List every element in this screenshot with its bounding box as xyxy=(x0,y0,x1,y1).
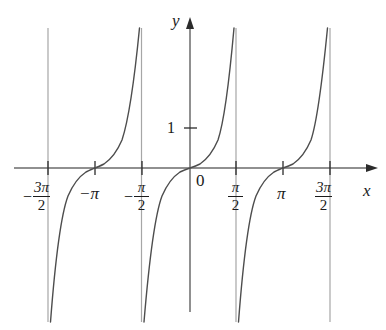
fraction-numerator: π xyxy=(137,180,147,195)
tangent-function-graph: y x 0 1 − 3π 2 −π − π 2 π xyxy=(0,0,386,330)
x-axis-label: x xyxy=(363,182,371,199)
fraction-denominator: 2 xyxy=(319,198,329,213)
origin-label: 0 xyxy=(196,172,205,189)
x-tick-label-3pi-over-2: 3π 2 xyxy=(315,180,332,214)
tangent-curve-group xyxy=(51,28,328,322)
fraction-denominator: 2 xyxy=(137,198,147,213)
fraction-pi-over-2: π 2 xyxy=(134,180,149,214)
y-axis-arrowhead xyxy=(186,17,194,29)
tangent-branch-center xyxy=(144,28,234,322)
fraction-3pi-over-2: 3π 2 xyxy=(33,180,50,214)
fraction-denominator: 2 xyxy=(231,198,241,213)
fraction-numerator: π xyxy=(231,180,241,195)
fraction-denominator: 2 xyxy=(37,198,47,213)
x-tick-label-pi-over-2: π 2 xyxy=(228,180,243,214)
asymptote-group xyxy=(48,28,330,322)
x-tick-label-neg-3pi-over-2: − 3π 2 xyxy=(23,180,50,214)
y-axis-label: y xyxy=(172,12,180,29)
minus-sign: − xyxy=(23,189,32,205)
x-tick-label-neg-pi: −π xyxy=(79,185,99,202)
x-tick-label-pi: π xyxy=(277,185,286,202)
x-tick-label-neg-pi-over-2: − π 2 xyxy=(124,180,149,214)
fraction-numerator: 3π xyxy=(315,180,332,195)
fraction-3pi-over-2: 3π 2 xyxy=(315,180,332,214)
minus-sign: − xyxy=(124,189,133,205)
y-tick-label-one: 1 xyxy=(167,120,175,136)
fraction-numerator: 3π xyxy=(33,180,50,195)
x-axis-arrowhead xyxy=(366,164,378,172)
plot-surface xyxy=(0,0,386,330)
fraction-pi-over-2: π 2 xyxy=(228,180,243,214)
